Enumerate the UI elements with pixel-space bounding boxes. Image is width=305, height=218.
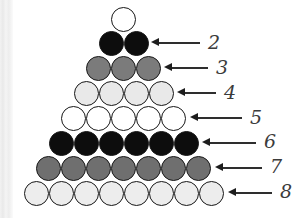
ball-row-6-col-4 [124,131,149,156]
arrow-head-row-8 [228,188,236,196]
arrow-head-row-3 [164,63,172,71]
ball-row-5-col-4 [136,106,161,131]
ball-row-4-col-1 [74,81,99,106]
ball-row-4-col-4 [149,81,174,106]
row-label-7: 7 [270,157,282,176]
ball-row-7-col-1 [36,156,61,181]
ball-row-8-col-3 [74,181,99,206]
ball-row-5-col-5 [161,106,186,131]
ball-row-7-col-4 [111,156,136,181]
arrow-head-row-6 [202,138,210,146]
ball-row-8-col-7 [174,181,199,206]
arrow-shaft-row-7 [222,167,262,169]
ball-row-5-col-1 [61,106,86,131]
ball-row-7-col-2 [61,156,86,181]
scan-artifact [0,0,13,218]
ball-row-1-col-1 [111,7,136,32]
arrow-shaft-row-8 [235,192,272,194]
ball-row-7-col-3 [86,156,111,181]
arrow-head-row-7 [215,163,223,171]
ball-row-2-col-2 [124,31,149,56]
ball-row-3-col-2 [111,56,136,81]
row-label-5: 5 [250,108,262,127]
ball-row-7-col-6 [161,156,186,181]
ball-row-7-col-7 [186,156,211,181]
ball-row-3-col-1 [86,56,111,81]
ball-row-2-col-1 [99,31,124,56]
ball-row-6-col-1 [49,131,74,156]
ball-row-8-col-4 [99,181,124,206]
row-label-4: 4 [224,83,236,102]
ball-row-6-col-2 [74,131,99,156]
row-label-6: 6 [264,132,276,151]
ball-row-8-col-1 [24,181,49,206]
ball-row-8-col-8 [199,181,224,206]
ball-row-4-col-2 [99,81,124,106]
ball-row-6-col-6 [174,131,199,156]
row-label-3: 3 [216,58,228,77]
arrow-shaft-row-3 [171,67,208,69]
arrow-shaft-row-5 [197,117,242,119]
ball-row-8-col-5 [124,181,149,206]
pyramid-figure-canvas: 2345678 [0,0,305,218]
arrow-shaft-row-4 [184,92,216,94]
row-label-2: 2 [208,33,220,52]
arrow-head-row-5 [190,113,198,121]
ball-row-5-col-3 [111,106,136,131]
ball-row-6-col-3 [99,131,124,156]
arrow-shaft-row-2 [158,42,200,44]
ball-row-8-col-6 [149,181,174,206]
arrow-head-row-4 [177,88,185,96]
ball-row-7-col-5 [136,156,161,181]
ball-row-3-col-3 [136,56,161,81]
arrow-shaft-row-6 [209,142,256,144]
ball-row-6-col-5 [149,131,174,156]
arrow-head-row-2 [151,38,159,46]
ball-row-8-col-2 [49,181,74,206]
ball-row-5-col-2 [86,106,111,131]
row-label-8: 8 [280,182,292,201]
ball-row-4-col-3 [124,81,149,106]
